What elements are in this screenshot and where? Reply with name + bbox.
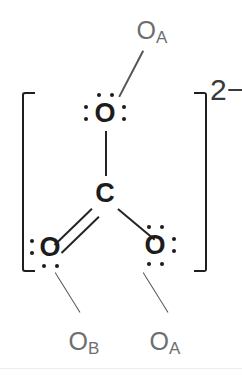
lone-pair-dot	[97, 93, 101, 97]
bracket-left	[22, 92, 35, 272]
lewis-structure-diagram: 2− O C O O OA OB OA	[0, 0, 242, 377]
label-subscript: B	[88, 339, 99, 358]
lone-pair-dot	[122, 105, 126, 109]
label-element: O	[69, 327, 88, 355]
bond-otop-to-carbon	[105, 131, 107, 176]
lone-pair-dot	[160, 262, 164, 266]
lone-pair-dot	[30, 239, 34, 243]
lone-pair-dot	[147, 262, 151, 266]
ionic-charge: 2−	[210, 75, 242, 105]
lone-pair-dot	[30, 251, 34, 255]
label-oxygen-a-top: OA	[137, 18, 168, 47]
label-oxygen-a-bottom: OA	[150, 329, 181, 358]
label-subscript: A	[156, 28, 167, 47]
atom-oxygen-bottom-right: O	[144, 232, 166, 259]
atom-oxygen-top: O	[94, 100, 116, 127]
lone-pair-dot	[172, 249, 176, 253]
lone-pair-dot	[147, 225, 151, 229]
atom-oxygen-bottom-left: O	[39, 234, 61, 261]
lone-pair-dot	[172, 237, 176, 241]
lone-pair-dot	[42, 264, 46, 268]
lone-pair-dot	[122, 117, 126, 121]
lone-pair-dot	[84, 105, 88, 109]
lone-pair-dot	[110, 93, 114, 97]
label-oxygen-b-bottom: OB	[69, 329, 100, 358]
bond-otop-to-label-oa	[118, 50, 143, 97]
lone-pair-dot	[160, 225, 164, 229]
bracket-right	[194, 92, 207, 272]
bond-obl-to-label-ob	[54, 272, 80, 313]
bond-obr-to-label-oa	[142, 272, 168, 313]
label-subscript: A	[169, 339, 180, 358]
bond-carbon-to-obl-line2	[61, 216, 100, 253]
atom-carbon-center: C	[94, 180, 116, 207]
footer-divider	[0, 368, 242, 369]
lone-pair-dot	[84, 117, 88, 121]
label-element: O	[137, 16, 156, 44]
label-element: O	[150, 327, 169, 355]
lone-pair-dot	[55, 264, 59, 268]
